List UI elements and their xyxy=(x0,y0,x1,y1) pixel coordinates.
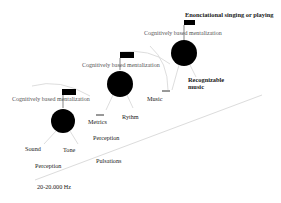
level-3-enonciational-label: Enonciational singing or playing xyxy=(185,11,274,18)
level-3-recognizable-music-label: Recognizable music xyxy=(188,76,226,90)
level-1-tone-label: Tone xyxy=(63,146,76,153)
level-1-mentalization-label: Cognitively based mentalization xyxy=(12,96,90,102)
level-2-rythm-label: Rythm xyxy=(122,113,139,120)
level-2-group: Cognitively based mentalization Metrics … xyxy=(82,51,170,164)
level-3-marker-bar xyxy=(184,20,195,25)
level-1-branch-right xyxy=(70,131,78,144)
level-2-branch-right xyxy=(127,95,133,108)
level-1-arc-connector xyxy=(32,84,90,96)
level-1-sound-label: Sound xyxy=(25,145,42,152)
level-1-marker-bar xyxy=(62,89,76,95)
level-1-frequency-range-label: 20-20.000 Hz xyxy=(37,183,71,190)
level-3-node xyxy=(171,40,197,66)
level-3-music-label: Music xyxy=(147,95,163,102)
recognizable-music-text: Recognizable xyxy=(188,76,224,83)
level-3-group: Enonciational singing or playing Cogniti… xyxy=(144,11,274,102)
level-2-metrics-label: Metrics xyxy=(88,118,107,125)
level-1-node xyxy=(51,109,75,133)
level-2-pulsations-label: Pulsations xyxy=(96,157,122,164)
level-1-perception-label: Perception xyxy=(35,162,61,169)
level-2-marker-bar xyxy=(120,52,134,58)
level-3-arc-connector xyxy=(150,46,168,90)
level-2-node xyxy=(107,71,133,97)
level-2-perception-label: Perception xyxy=(93,134,119,141)
level-2-mentalization-label: Cognitively based mentalization xyxy=(82,62,160,68)
level-3-mentalization-label: Cognitively based mentalization xyxy=(144,30,222,36)
diagonal-axis xyxy=(35,95,262,180)
level-3-branch-left xyxy=(172,65,179,90)
perception-hierarchy-diagram: Cognitively based mentalization Sound To… xyxy=(0,0,281,203)
level-2-branch-left xyxy=(106,95,113,110)
level-1-branch-left xyxy=(44,131,56,144)
recognizable-music-text-line2: music xyxy=(188,83,204,90)
